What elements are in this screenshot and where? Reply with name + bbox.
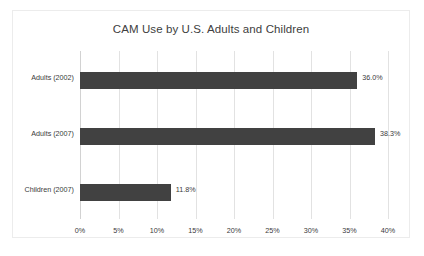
- x-tick-label: 15%: [188, 226, 202, 235]
- x-tick-label: 5%: [113, 226, 123, 235]
- x-tick-label: 10%: [150, 226, 164, 235]
- x-tick-label: 40%: [381, 226, 395, 235]
- category-label: Adults (2002): [31, 73, 74, 82]
- x-tick-label: 20%: [227, 226, 241, 235]
- x-tick-label: 25%: [265, 226, 279, 235]
- x-tick-label: 30%: [304, 226, 318, 235]
- chart-frame: CAM Use by U.S. Adults and Children Adul…: [12, 10, 410, 238]
- bar-row: Adults (2002)36.0%: [80, 60, 388, 102]
- x-tick-label: 0%: [75, 226, 85, 235]
- category-label: Adults (2007): [31, 129, 74, 138]
- bar-value-label: 38.3%: [380, 129, 400, 138]
- category-label: Children (2007): [24, 185, 74, 194]
- bar: [80, 128, 375, 145]
- x-tick-label: 35%: [342, 226, 356, 235]
- chart-title: CAM Use by U.S. Adults and Children: [13, 23, 409, 35]
- x-axis: 0%5%10%15%20%25%30%35%40%: [80, 219, 388, 239]
- bar-value-label: 36.0%: [362, 73, 382, 82]
- bar-value-label: 11.8%: [176, 185, 196, 194]
- bar-row: Adults (2007)38.3%: [80, 116, 388, 158]
- bar: [80, 72, 357, 89]
- bar-row: Children (2007)11.8%: [80, 172, 388, 214]
- bar: [80, 184, 171, 201]
- plot-area: Adults (2002)36.0%Adults (2007)38.3%Chil…: [80, 51, 388, 219]
